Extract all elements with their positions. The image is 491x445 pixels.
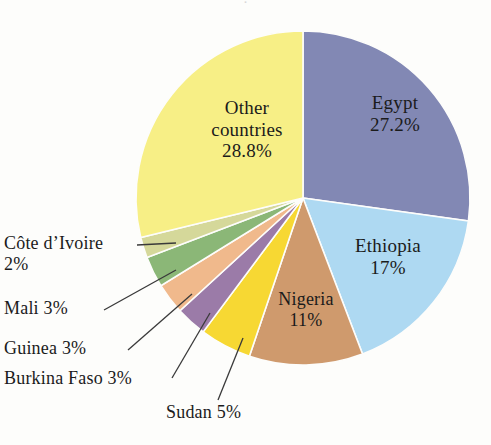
slice-label-nigeria: Nigeria 11% — [263, 289, 349, 330]
leader-line-guinea — [128, 294, 192, 350]
slice-label-ethiopia: Ethiopia 17% — [332, 235, 444, 278]
pie-chart-figure: · Egypt 27.2% Ethiopia 17% Nigeria 11% O… — [0, 0, 491, 445]
slice-label-other-countries: Other countries 28.8% — [186, 97, 308, 162]
callout-label-mali: Mali 3% — [4, 298, 108, 319]
callout-label-cote-divoire: Côte d’Ivoire 2% — [4, 233, 136, 274]
callout-label-burkina-faso: Burkina Faso 3% — [4, 368, 176, 389]
callout-label-guinea: Guinea 3% — [4, 338, 130, 359]
slice-label-egypt: Egypt 27.2% — [340, 92, 450, 135]
callout-label-sudan: Sudan 5% — [166, 402, 286, 423]
